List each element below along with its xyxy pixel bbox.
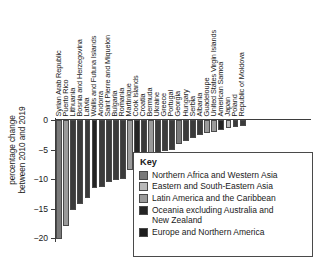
x-axis-category-label: Republic of Moldova [237, 52, 244, 116]
legend-swatch [139, 182, 148, 191]
bar[interactable] [85, 120, 91, 198]
legend-entry-label: Northern Africa and Western Asia [152, 170, 278, 180]
bar[interactable] [56, 120, 62, 239]
bar[interactable] [106, 120, 112, 182]
y-tick-mark [51, 150, 55, 151]
bar[interactable] [127, 120, 133, 170]
legend-swatch [139, 228, 148, 237]
y-tick-label: −20 [33, 233, 48, 243]
bar[interactable] [120, 120, 126, 179]
bar[interactable] [169, 120, 175, 150]
y-tick-mark [51, 120, 55, 121]
y-tick-mark [51, 179, 55, 180]
bar[interactable] [211, 120, 217, 132]
legend-entry[interactable]: Northern Africa and Western Asia [139, 170, 307, 180]
legend-entry[interactable]: Eastern and South-Eastern Asia [139, 181, 307, 191]
bar[interactable] [183, 120, 189, 141]
y-tick-label: −5 [38, 145, 48, 155]
legend-entry[interactable]: Europe and Northern America [139, 227, 307, 237]
bar[interactable] [197, 120, 203, 135]
y-tick-mark [51, 209, 55, 210]
legend-swatch [139, 206, 148, 215]
legend-entry-label: Europe and Northern America [152, 227, 264, 237]
legend-title: Key [140, 157, 307, 167]
bar[interactable] [240, 120, 246, 126]
y-tick-mark [51, 238, 55, 239]
bar[interactable] [190, 120, 196, 138]
legend: Key Northern Africa and Western AsiaEast… [133, 152, 313, 257]
legend-entry-list: Northern Africa and Western AsiaEastern … [139, 170, 307, 238]
bar[interactable] [92, 120, 98, 188]
bar[interactable] [155, 120, 161, 153]
legend-entry-label: Latin America and the Caribbean [152, 193, 276, 203]
legend-swatch [139, 194, 148, 203]
y-tick-label: 0 [43, 115, 48, 125]
bar-chart: percentage change between 2010 and 2019 … [0, 0, 320, 263]
y-axis-title: percentage change between 2010 and 2019 [7, 95, 37, 205]
bar[interactable] [218, 120, 224, 130]
bar[interactable] [233, 120, 239, 127]
legend-entry-label: Eastern and South-Eastern Asia [152, 181, 273, 191]
legend-entry-label: Oceania excluding Australia and New Zeal… [152, 205, 273, 226]
bar[interactable] [226, 120, 232, 128]
bar[interactable] [70, 120, 76, 210]
y-tick-label: −10 [33, 174, 48, 184]
bar[interactable] [113, 120, 119, 180]
bar[interactable] [176, 120, 182, 144]
legend-entry[interactable]: Latin America and the Caribbean [139, 193, 307, 203]
bar[interactable] [77, 120, 83, 204]
legend-swatch [139, 171, 148, 180]
legend-entry[interactable]: Oceania excluding Australia and New Zeal… [139, 205, 307, 226]
y-tick-label: −15 [33, 204, 48, 214]
bar[interactable] [99, 120, 105, 187]
bar[interactable] [148, 120, 154, 155]
bar[interactable] [162, 120, 168, 151]
bar[interactable] [63, 120, 69, 226]
bar[interactable] [204, 120, 210, 133]
x-axis-category-labels: Syrian Arab RepublicPuerto RicoLithuania… [56, 0, 311, 118]
